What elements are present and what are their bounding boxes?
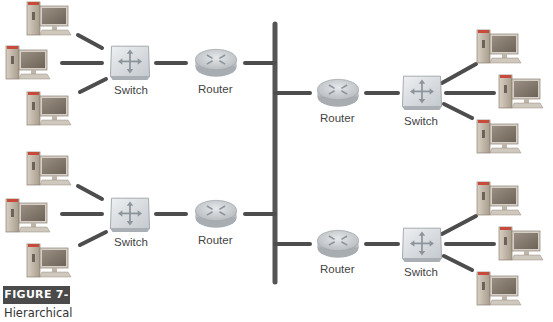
computer-icon [499,75,543,108]
router-icon [195,200,236,227]
router-label: Router [198,83,233,95]
router-label: Router [320,263,355,275]
switch-label: Switch [404,115,438,127]
router-label: Router [198,234,233,246]
computer-icon [6,199,50,232]
computer-icon [27,152,71,185]
switch-label: Switch [114,236,148,248]
links [62,186,275,245]
computer-icon [477,272,521,305]
router-icon [195,49,236,76]
switch-icon [402,76,441,110]
figure-caption: Hierarchical [4,306,73,320]
links [275,216,494,270]
links [62,35,275,92]
segment-upper-right: Router Switch [275,30,543,153]
computer-icon [477,182,521,215]
segment-lower-right: Router Switch [275,182,543,305]
switch-icon [402,228,441,262]
computer-icon [477,120,521,153]
computer-icon [27,92,71,125]
router-icon [317,79,358,106]
switch-icon [110,198,149,232]
switch-label: Switch [404,266,438,278]
figure-number-badge: FIGURE 7-6 [3,286,70,304]
switch-label: Switch [114,84,148,96]
links [275,64,494,118]
hierarchical-network-diagram: Switch Router Switch Router [0,0,553,322]
computer-icon [27,244,71,277]
segment-lower-left: Switch Router [6,152,275,277]
segment-upper-left: Switch Router [6,2,275,125]
router-icon [317,230,358,257]
switch-icon [110,46,149,80]
router-label: Router [320,112,355,124]
computer-icon [499,227,543,260]
computer-icon [27,2,71,35]
computer-icon [6,46,50,79]
computer-icon [477,30,521,63]
